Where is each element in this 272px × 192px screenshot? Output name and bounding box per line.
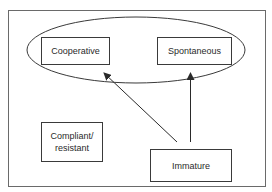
compliant-resistant-label-line1: Compliant/ bbox=[50, 131, 94, 141]
immature-label: Immature bbox=[172, 161, 210, 171]
compliant-resistant-box bbox=[42, 123, 103, 162]
spontaneous-label: Spontaneous bbox=[168, 46, 222, 56]
compliant-resistant-label-line2: resistant bbox=[55, 143, 90, 153]
cooperative-label: Cooperative bbox=[51, 46, 100, 56]
node-spontaneous: Spontaneous bbox=[158, 38, 232, 65]
diagram-canvas: Cooperative Spontaneous Compliant/ resis… bbox=[0, 0, 272, 192]
node-cooperative: Cooperative bbox=[42, 38, 110, 65]
node-compliant-resistant: Compliant/ resistant bbox=[42, 123, 103, 162]
node-immature: Immature bbox=[151, 150, 232, 182]
